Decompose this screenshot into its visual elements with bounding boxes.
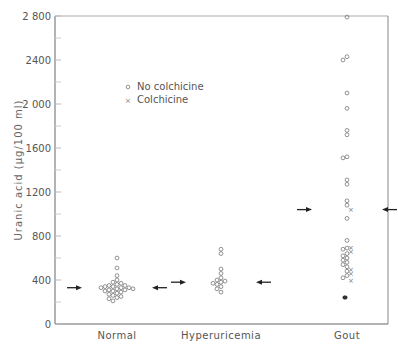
data-point [111, 280, 115, 284]
data-point [341, 58, 345, 62]
arrow-head [306, 207, 312, 212]
data-point [219, 252, 223, 256]
y-tick-label: 400 [32, 275, 51, 286]
data-point [103, 285, 107, 289]
data-point [345, 239, 349, 243]
data-point-cross: × [348, 248, 354, 256]
data-point [345, 55, 349, 59]
data-point [215, 287, 219, 291]
y-tick-label: 800 [32, 231, 51, 242]
arrow-head [76, 285, 82, 290]
y-tick-label: 2 800 [22, 11, 51, 22]
data-point [345, 155, 349, 159]
data-point [345, 217, 349, 221]
data-point [345, 256, 349, 260]
data-point [215, 278, 219, 282]
data-points: ×××××× [99, 15, 354, 303]
y-tick-label: 2 000 [22, 99, 51, 110]
y-tick-label: 2400 [26, 55, 51, 66]
data-point [115, 274, 119, 278]
data-point [131, 287, 135, 291]
plot-frame [55, 16, 388, 324]
data-point [107, 288, 111, 292]
data-point [123, 288, 127, 292]
data-point [115, 256, 119, 260]
y-tick-label: 0 [45, 319, 51, 330]
data-point [107, 297, 111, 301]
data-point [115, 278, 119, 282]
data-point [223, 279, 227, 283]
data-point [99, 286, 103, 290]
legend-cross-icon: × [125, 97, 131, 105]
data-point-filled [344, 296, 348, 300]
data-point [123, 284, 127, 288]
data-point [127, 286, 131, 290]
data-point [219, 276, 223, 280]
data-point [345, 129, 349, 133]
data-point [119, 281, 123, 285]
x-axis-category-labels: NormalHyperuricemiaGout [97, 330, 360, 341]
data-point [345, 261, 349, 265]
y-axis-label: Uranic acid (μg/100 ml) [13, 100, 24, 241]
data-point [119, 290, 123, 294]
data-point [345, 133, 349, 137]
data-point [111, 299, 115, 303]
y-tick-label: 1200 [26, 187, 51, 198]
data-point [345, 182, 349, 186]
data-point [341, 276, 345, 280]
legend: No colchicine×Colchicine [125, 81, 204, 105]
data-point [341, 263, 345, 267]
data-point [103, 289, 107, 293]
data-point [345, 199, 349, 203]
data-point [219, 267, 223, 271]
data-point [115, 287, 119, 291]
category-label: Gout [334, 330, 360, 341]
category-label: Hyperuricemia [181, 330, 261, 341]
data-point-cross: × [348, 206, 354, 214]
legend-label: No colchicine [137, 81, 204, 92]
data-point [345, 91, 349, 95]
data-point [345, 107, 349, 111]
arrow-head [382, 207, 388, 212]
data-point [115, 291, 119, 295]
data-point [219, 285, 223, 289]
y-axis-tick-labels: 0400800120016002 00024002 800 [22, 11, 51, 330]
data-point [219, 247, 223, 251]
y-axis-ticks [55, 16, 61, 324]
legend-label: Colchicine [137, 94, 188, 105]
data-point [111, 285, 115, 289]
arrow-head [256, 280, 262, 285]
data-point [341, 156, 345, 160]
data-point [219, 280, 223, 284]
arrow-head [152, 285, 158, 290]
data-point [211, 281, 215, 285]
category-label: Normal [97, 330, 136, 341]
y-tick-label: 1600 [26, 143, 51, 154]
data-point [215, 283, 219, 287]
arrow-head [180, 280, 186, 285]
data-point [111, 294, 115, 298]
data-point-cross: × [348, 277, 354, 285]
data-point [341, 258, 345, 262]
data-point [345, 178, 349, 182]
data-point [219, 272, 223, 276]
data-point [119, 295, 123, 299]
legend-circle-icon [126, 85, 130, 89]
uranic-acid-chart: 0400800120016002 00024002 800 Uranic aci… [0, 0, 398, 349]
data-point [341, 247, 345, 251]
data-point [111, 289, 115, 293]
data-point [119, 286, 123, 290]
data-point [219, 290, 223, 294]
data-point [107, 284, 111, 288]
data-point [341, 254, 345, 258]
data-point [107, 292, 111, 296]
data-point [115, 296, 119, 300]
data-point [115, 283, 119, 287]
data-point [115, 266, 119, 270]
